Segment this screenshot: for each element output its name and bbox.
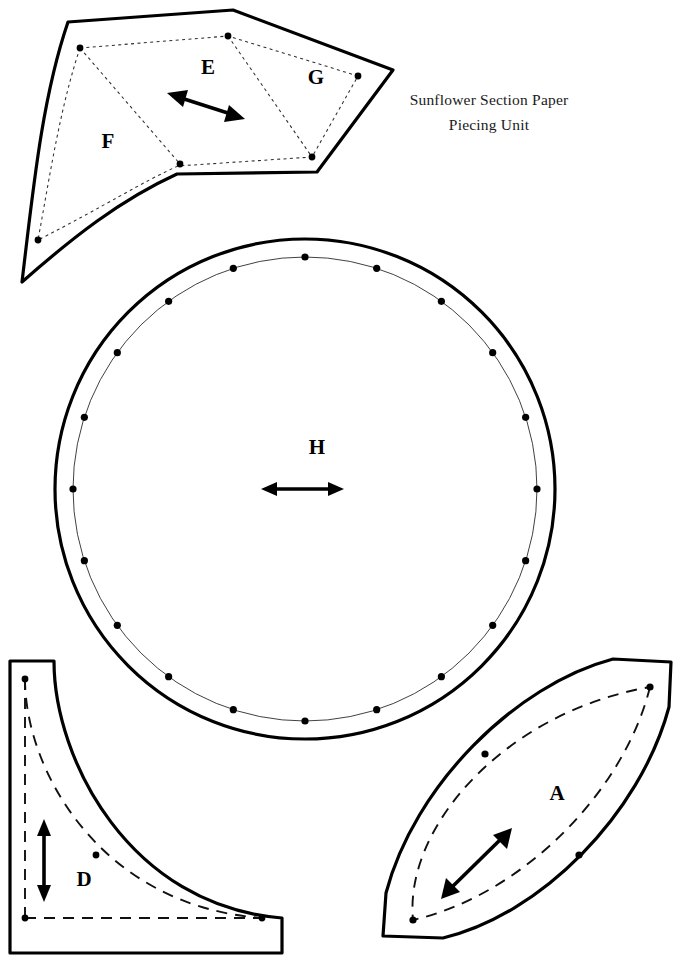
- match-dot: [575, 851, 582, 858]
- match-dot: [81, 557, 88, 564]
- piece-label-h: H: [309, 435, 325, 459]
- match-dot: [301, 717, 308, 724]
- match-dot: [309, 154, 316, 161]
- match-dot: [438, 673, 445, 680]
- match-dot: [489, 349, 496, 356]
- match-dot: [165, 298, 172, 305]
- pattern-drawing: E F G Sunflower Section Paper Piecing Un…: [0, 0, 681, 968]
- match-dot: [114, 622, 121, 629]
- title-line-1: Sunflower Section Paper: [410, 91, 569, 108]
- match-dot: [481, 750, 488, 757]
- match-dot: [355, 73, 362, 80]
- piece-label-e: E: [201, 55, 215, 79]
- match-dot: [22, 915, 29, 922]
- match-dot: [77, 45, 84, 52]
- match-dot: [522, 414, 529, 421]
- match-dot: [301, 253, 308, 260]
- piece-h-circle: H: [55, 239, 555, 739]
- match-dot: [373, 706, 380, 713]
- match-dot: [93, 852, 100, 859]
- match-dot: [646, 683, 653, 690]
- match-dot: [22, 676, 29, 683]
- match-dot: [35, 237, 42, 244]
- piece-label-f: F: [102, 129, 115, 153]
- match-dot: [225, 33, 232, 40]
- match-dot: [230, 265, 237, 272]
- piece-label-d: D: [76, 867, 91, 891]
- piece-label-g: G: [308, 65, 324, 89]
- match-dot: [409, 916, 416, 923]
- match-dot: [81, 414, 88, 421]
- piece-label-a: A: [549, 781, 565, 805]
- match-dot: [522, 557, 529, 564]
- match-dot: [114, 349, 121, 356]
- pattern-sheet: E F G Sunflower Section Paper Piecing Un…: [0, 0, 681, 968]
- sheet-title: Sunflower Section Paper Piecing Unit: [410, 91, 569, 133]
- match-dot: [165, 673, 172, 680]
- match-dot: [230, 706, 237, 713]
- match-dot: [259, 915, 266, 922]
- match-dot: [373, 265, 380, 272]
- match-dot: [489, 622, 496, 629]
- match-dot: [438, 298, 445, 305]
- match-dot: [533, 485, 540, 492]
- match-dot: [177, 161, 184, 168]
- title-line-2: Piecing Unit: [449, 116, 530, 133]
- match-dot: [69, 485, 76, 492]
